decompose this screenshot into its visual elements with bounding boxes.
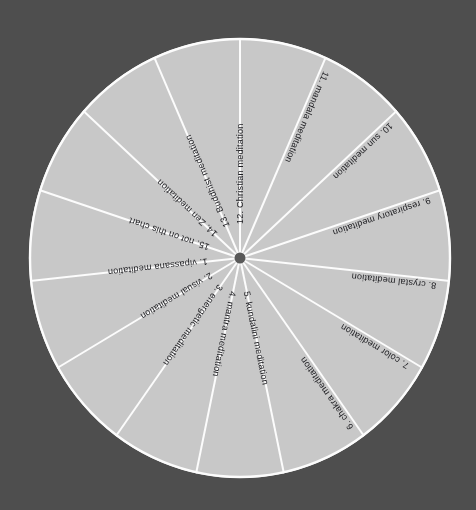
wheel-hub xyxy=(235,253,246,264)
slice-label: 12. Christian meditation xyxy=(235,123,245,224)
pie-chart-svg: 1. vipassana meditation2. visual meditat… xyxy=(0,0,476,510)
meditation-wheel-chart: 1. vipassana meditation2. visual meditat… xyxy=(0,0,476,510)
